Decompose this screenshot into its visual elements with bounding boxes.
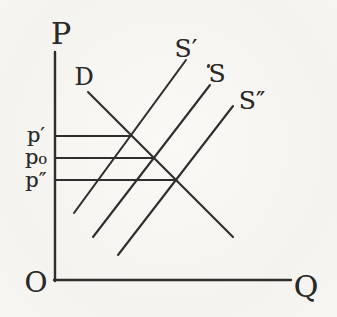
quantity-axis-label: Q [294,272,319,302]
figure-canvas: P O Q D S′ S S″ p′ p₀ p″ [0,0,337,317]
origin-label: O [25,269,48,297]
supply-prime-curve-label: S′ [175,36,198,61]
supply-curve-label: S [208,61,225,86]
price-double-prime-label: p″ [25,170,46,191]
demand-curve-label: D [74,65,93,89]
price-zero-label: p₀ [25,147,47,168]
supply-double-prime-curve-label: S″ [239,88,265,113]
price-axis-label: P [51,19,71,49]
price-prime-label: p′ [27,125,45,146]
